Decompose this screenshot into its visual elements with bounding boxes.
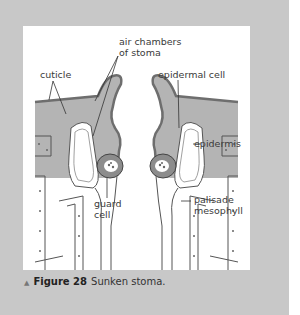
caption-text: Sunken stoma. bbox=[91, 276, 165, 287]
label-guard-line1: guard bbox=[94, 198, 122, 209]
label-air-chambers: air chambers of stoma bbox=[119, 36, 181, 58]
label-cuticle: cuticle bbox=[40, 69, 71, 80]
label-palisade-mesophyll: palisade mesophyll bbox=[194, 194, 243, 216]
label-epidermis: epidermis bbox=[194, 138, 241, 149]
label-air-chambers-line2: of stoma bbox=[119, 47, 181, 58]
figure-number: Figure 28 bbox=[33, 276, 87, 287]
label-palisade-line2: mesophyll bbox=[194, 205, 243, 216]
label-air-chambers-line1: air chambers bbox=[119, 36, 181, 47]
label-guard-line2: cell bbox=[94, 209, 122, 220]
caption-marker-icon: ▲ bbox=[24, 279, 29, 287]
label-epidermal-cell: epidermal cell bbox=[158, 69, 225, 80]
label-palisade-line1: palisade bbox=[194, 194, 243, 205]
figure-caption: ▲Figure 28Sunken stoma. bbox=[24, 276, 165, 287]
diagram-area: air chambers of stoma cuticle epidermal … bbox=[23, 26, 250, 270]
label-guard-cell: guard cell bbox=[94, 198, 122, 220]
figure-panel: air chambers of stoma cuticle epidermal … bbox=[0, 0, 289, 315]
